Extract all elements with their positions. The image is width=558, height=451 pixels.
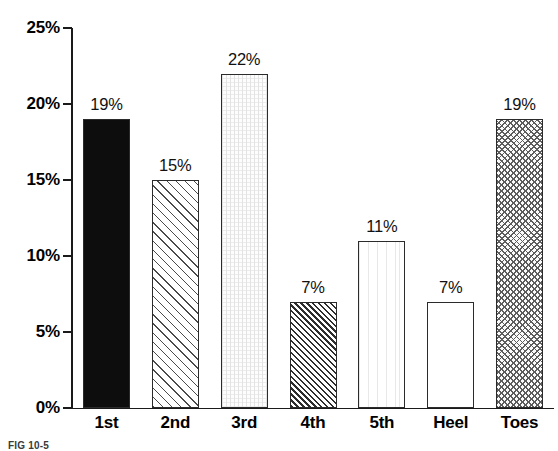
x-axis-category-label: Toes bbox=[501, 413, 539, 433]
y-axis-tick bbox=[63, 331, 72, 333]
y-axis-tick-label: 15% bbox=[2, 170, 60, 190]
bar-value-label: 7% bbox=[301, 278, 324, 297]
x-axis-category-label: 5th bbox=[369, 413, 394, 433]
x-axis-category-label: Heel bbox=[433, 413, 468, 433]
bar-value-label: 15% bbox=[159, 156, 191, 175]
x-axis-category-label: 4th bbox=[301, 413, 326, 433]
x-axis-category-label: 1st bbox=[94, 413, 118, 433]
y-axis-tick bbox=[63, 27, 72, 29]
bar-chart: 0%5%10%15%20%25% 19%1st15%2nd22%3rd7%4th… bbox=[0, 0, 558, 451]
y-axis-tick bbox=[63, 103, 72, 105]
bar-value-label: 11% bbox=[366, 217, 397, 236]
y-axis-tick bbox=[63, 255, 72, 257]
bar bbox=[496, 119, 543, 408]
bar-value-label: 19% bbox=[503, 95, 535, 114]
bar bbox=[221, 74, 268, 408]
bar-value-label: 19% bbox=[90, 95, 122, 114]
bar bbox=[427, 302, 474, 408]
y-axis-tick-label: 10% bbox=[2, 246, 60, 266]
figure-caption: FIG 10-5 bbox=[8, 440, 49, 451]
bar bbox=[290, 302, 337, 408]
y-axis-tick-label: 0% bbox=[2, 398, 60, 418]
y-axis-tick-label: 5% bbox=[2, 322, 60, 342]
bar bbox=[83, 119, 130, 408]
y-axis-tick-label: 25% bbox=[2, 18, 60, 38]
x-axis-category-label: 3rd bbox=[231, 413, 257, 433]
x-axis-category-label: 2nd bbox=[160, 413, 190, 433]
bar-value-label: 7% bbox=[439, 278, 462, 297]
bar bbox=[358, 241, 405, 408]
y-axis-tick bbox=[63, 179, 72, 181]
y-axis-tick bbox=[63, 407, 72, 409]
y-axis-line bbox=[71, 28, 73, 409]
figure-panel: 0%5%10%15%20%25% 19%1st15%2nd22%3rd7%4th… bbox=[0, 0, 558, 451]
y-axis-tick-label: 20% bbox=[2, 94, 60, 114]
bar bbox=[152, 180, 199, 408]
bar-value-label: 22% bbox=[228, 50, 260, 69]
